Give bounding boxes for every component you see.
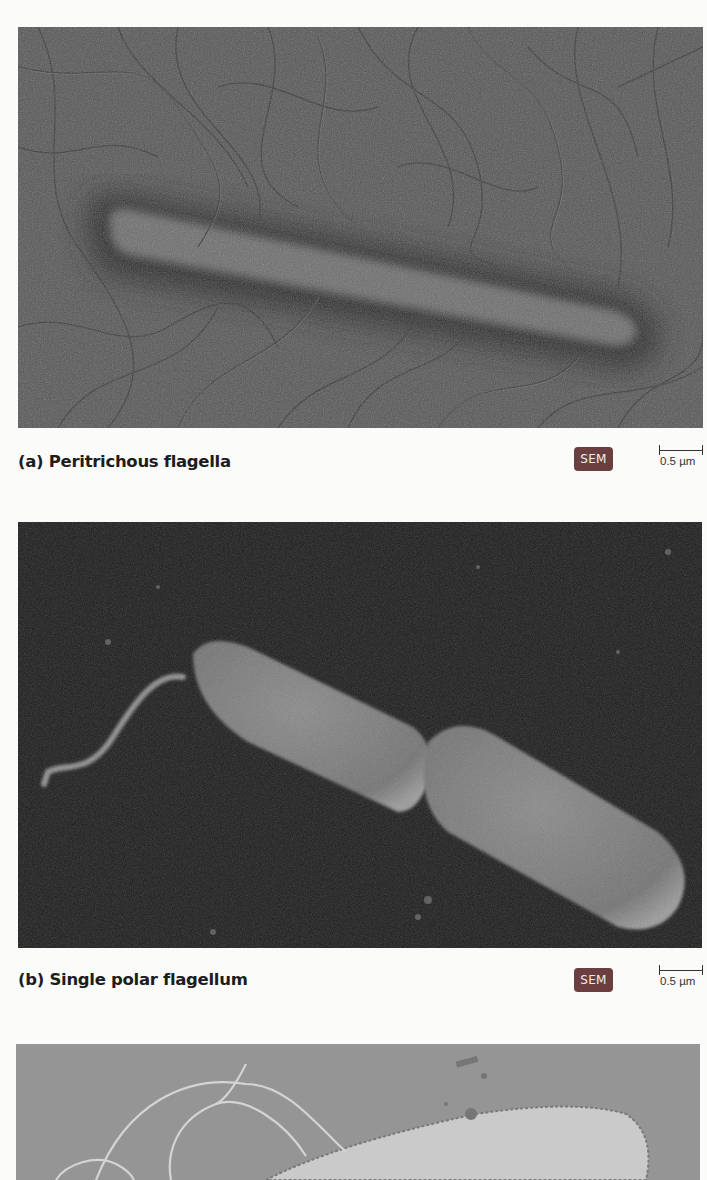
micrograph-peritrichous-flagella <box>18 27 703 428</box>
scale-bar: 0.5 µm <box>659 445 703 473</box>
scale-label: 0.5 µm <box>660 455 695 467</box>
scale-tick-right <box>702 965 703 975</box>
scale-line <box>659 970 703 971</box>
scale-line <box>659 450 703 451</box>
peritrichous-sem-image <box>18 27 703 428</box>
scale-bar: 0.5 µm <box>659 965 703 993</box>
sem-badge: SEM <box>574 968 613 992</box>
scale-label: 0.5 µm <box>660 975 695 987</box>
figure-caption-b: (b) Single polar flagellum <box>18 970 248 989</box>
tuft-flagella-sem-image <box>16 1044 700 1180</box>
micrograph-single-polar-flagellum <box>18 522 702 948</box>
polar-flagellum-sem-image <box>18 522 702 948</box>
micrograph-tuft-flagella-partial <box>16 1044 700 1180</box>
scale-tick-right <box>702 445 703 455</box>
figure-caption-a: (a) Peritrichous flagella <box>18 452 231 471</box>
sem-badge: SEM <box>574 447 613 471</box>
